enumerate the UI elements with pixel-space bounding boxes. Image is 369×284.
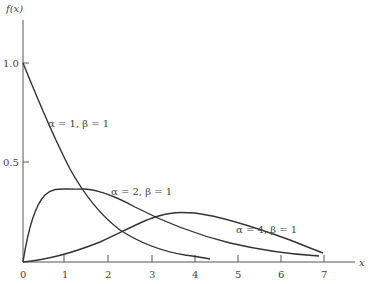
svg-text:6: 6 bbox=[278, 269, 284, 280]
annotation-alpha2: α = 2, β = 1 bbox=[111, 186, 172, 197]
x-axis-label: x bbox=[359, 257, 365, 268]
curve-alpha1-beta1 bbox=[23, 63, 210, 259]
svg-text:1: 1 bbox=[62, 269, 68, 280]
svg-text:5: 5 bbox=[235, 269, 241, 280]
svg-text:2: 2 bbox=[105, 269, 111, 280]
svg-text:3: 3 bbox=[149, 269, 155, 280]
svg-text:4: 4 bbox=[192, 269, 198, 280]
annotation-alpha4: α = 4, β = 1 bbox=[236, 224, 297, 235]
y-axis-label: f(x) bbox=[5, 3, 23, 14]
svg-text:0: 0 bbox=[20, 269, 26, 280]
curve-alpha4-beta1 bbox=[23, 212, 323, 262]
y-tick-label-1: 1.0 bbox=[3, 58, 19, 69]
gamma-density-chart: f(x) 1.0 0.5 x 0 1 2 3 4 5 6 7 α = 1, β … bbox=[0, 0, 369, 284]
y-tick-label-05: 0.5 bbox=[3, 157, 19, 168]
svg-text:7: 7 bbox=[321, 269, 327, 280]
annotation-alpha1: α = 1, β = 1 bbox=[48, 118, 109, 129]
x-tick-labels: 0 1 2 3 4 5 6 7 bbox=[20, 269, 327, 280]
